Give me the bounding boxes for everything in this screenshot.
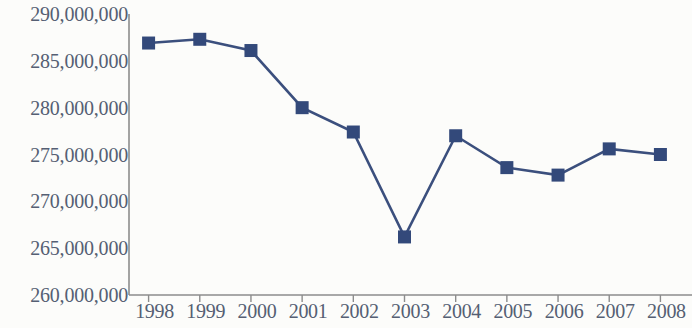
line-chart: 260,000,000265,000,000270,000,000275,000… bbox=[0, 0, 692, 328]
x-axis-tick-label: 2004 bbox=[442, 300, 481, 323]
x-axis-tick-labels: 1998199920002001200220032004200520062007… bbox=[0, 0, 692, 328]
x-axis-tick-label: 2006 bbox=[545, 300, 584, 323]
x-axis-tick-label: 2001 bbox=[289, 300, 328, 323]
x-axis-tick-label: 1998 bbox=[135, 300, 174, 323]
x-axis-tick-label: 2005 bbox=[493, 300, 532, 323]
x-axis-tick-label: 2002 bbox=[340, 300, 379, 323]
x-axis-tick-label: 2008 bbox=[647, 300, 686, 323]
x-axis-tick-label: 2007 bbox=[596, 300, 635, 323]
x-axis-tick-label: 2000 bbox=[238, 300, 277, 323]
x-axis-tick-label: 1999 bbox=[186, 300, 225, 323]
x-axis-tick-label: 2003 bbox=[391, 300, 430, 323]
